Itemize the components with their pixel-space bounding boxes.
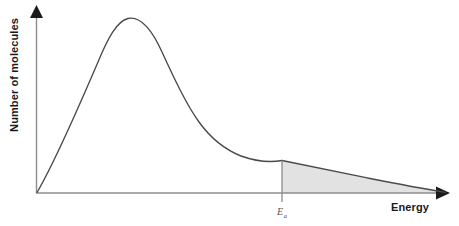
activation-energy-label-subscript: a	[284, 212, 287, 219]
activation-energy-label-main: E	[276, 206, 283, 217]
x-axis-arrow-icon	[436, 187, 450, 200]
y-axis-title: Number of molecules	[8, 18, 20, 132]
y-axis-arrow-icon	[30, 5, 43, 18]
distribution-curve	[37, 18, 445, 192]
maxwell-boltzmann-distribution-figure: Ea Energy Number of molecules	[0, 0, 459, 226]
activation-energy-label: Ea	[276, 206, 287, 219]
chart-canvas: Ea Energy Number of molecules	[0, 0, 459, 226]
x-axis-title: Energy	[391, 201, 430, 213]
